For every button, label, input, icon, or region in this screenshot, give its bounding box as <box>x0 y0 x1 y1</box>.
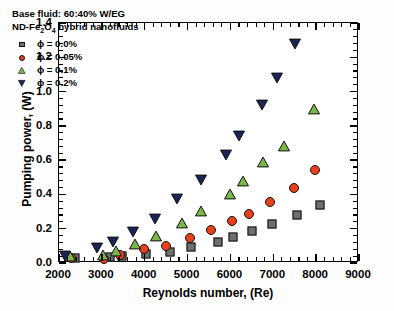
data-point <box>176 218 188 229</box>
x-axis-minor-tick <box>161 257 162 261</box>
x-tick-label: 6000 <box>217 268 243 280</box>
x-axis-minor-tick <box>136 257 137 261</box>
y-axis-tick <box>350 262 357 263</box>
data-point <box>195 206 207 217</box>
x-axis-minor-tick <box>196 257 197 261</box>
data-point <box>91 243 103 254</box>
legend-entries: ϕ = 0.0%ϕ = 0.05%ϕ = 0.1%ϕ = 0.2% <box>12 38 139 90</box>
y-axis-minor-tick <box>59 235 63 236</box>
legend-label: ϕ = 0.0% <box>37 38 77 50</box>
y-axis-minor-tick <box>353 105 357 106</box>
y-axis-minor-tick <box>353 29 357 30</box>
x-axis-tick <box>273 23 274 30</box>
y-axis-tick <box>350 57 357 58</box>
y-axis-tick <box>350 91 357 92</box>
y-axis-minor-tick <box>353 221 357 222</box>
legend-item: ϕ = 0.2% <box>12 77 139 90</box>
legend-marker-icon <box>12 67 32 74</box>
y-axis-minor-tick <box>59 208 63 209</box>
y-axis-minor-tick <box>59 187 63 188</box>
y-axis-minor-tick <box>353 98 357 99</box>
x-axis-minor-tick <box>298 23 299 27</box>
y-axis-minor-tick <box>59 105 63 106</box>
x-axis-minor-tick <box>324 257 325 261</box>
x-tick-label: 7000 <box>259 268 285 280</box>
y-axis-minor-tick <box>59 173 63 174</box>
x-axis-minor-tick <box>93 257 94 261</box>
x-axis-minor-tick <box>333 23 334 27</box>
y-axis-tick <box>59 91 66 92</box>
x-axis-minor-tick <box>341 23 342 27</box>
x-axis-minor-tick <box>221 257 222 261</box>
x-axis-minor-tick <box>110 257 111 261</box>
y-axis-minor-tick <box>59 166 63 167</box>
y-axis-minor-tick <box>59 214 63 215</box>
x-axis-minor-tick <box>67 257 68 261</box>
data-point <box>171 194 183 205</box>
x-axis-minor-tick <box>247 257 248 261</box>
legend-item: ϕ = 0.1% <box>12 64 139 77</box>
x-axis-minor-tick <box>84 257 85 261</box>
data-point <box>233 130 245 141</box>
y-axis-minor-tick <box>353 77 357 78</box>
x-axis-tick <box>230 23 231 30</box>
data-point <box>206 225 216 235</box>
data-point <box>127 227 139 238</box>
x-tick-label: 2000 <box>45 268 71 280</box>
x-axis-minor-tick <box>307 257 308 261</box>
data-point <box>310 165 320 175</box>
legend-label: ϕ = 0.1% <box>37 64 77 76</box>
pumping-power-chart: 20003000400050006000700080009000 0.00.20… <box>0 0 394 311</box>
data-point <box>185 233 195 243</box>
x-axis-minor-tick <box>213 257 214 261</box>
y-axis-minor-tick <box>353 235 357 236</box>
x-axis-minor-tick <box>264 23 265 27</box>
x-axis-minor-tick <box>256 23 257 27</box>
x-axis-minor-tick <box>281 257 282 261</box>
x-tick-label: 3000 <box>88 268 114 280</box>
legend-marker-icon <box>12 55 32 61</box>
y-axis-minor-tick <box>353 146 357 147</box>
x-axis-minor-tick <box>290 23 291 27</box>
y-axis-minor-tick <box>59 242 63 243</box>
x-axis-minor-tick <box>118 257 119 261</box>
x-axis-minor-tick <box>341 257 342 261</box>
y-axis-minor-tick <box>353 208 357 209</box>
data-point <box>244 209 254 219</box>
data-point <box>129 239 141 250</box>
x-axis-minor-tick <box>324 23 325 27</box>
y-axis-minor-tick <box>59 180 63 181</box>
data-point <box>149 213 161 224</box>
y-axis-minor-tick <box>353 187 357 188</box>
x-axis-tick <box>187 254 188 261</box>
y-axis-minor-tick <box>353 180 357 181</box>
legend: Base fluid: 60:40% W/EG ND-Fe2O4 hybrid … <box>12 8 139 90</box>
legend-label: ϕ = 0.2% <box>37 77 77 89</box>
y-axis-tick <box>350 194 357 195</box>
data-point <box>228 233 237 242</box>
x-axis-title: Reynolds number, (Re) <box>58 286 358 300</box>
x-axis-tick <box>273 254 274 261</box>
x-axis-tick <box>144 23 145 30</box>
x-axis-minor-tick <box>178 23 179 27</box>
x-axis-minor-tick <box>196 23 197 27</box>
x-axis-tick <box>315 254 316 261</box>
y-axis-minor-tick <box>353 242 357 243</box>
legend-item: ϕ = 0.0% <box>12 38 139 51</box>
y-axis-tick <box>59 194 66 195</box>
y-axis-minor-tick <box>59 139 63 140</box>
y-axis-minor-tick <box>353 173 357 174</box>
y-axis-tick <box>350 159 357 160</box>
y-axis-minor-tick <box>59 256 63 257</box>
y-axis-tick <box>59 228 66 229</box>
data-point <box>150 230 162 241</box>
data-point <box>247 227 256 236</box>
data-point <box>220 149 232 160</box>
x-axis-minor-tick <box>350 257 351 261</box>
x-axis-minor-tick <box>333 257 334 261</box>
x-tick-label: 9000 <box>345 268 371 280</box>
data-point <box>315 200 324 209</box>
x-axis-minor-tick <box>307 23 308 27</box>
y-axis-minor-tick <box>353 214 357 215</box>
data-point <box>187 242 196 251</box>
